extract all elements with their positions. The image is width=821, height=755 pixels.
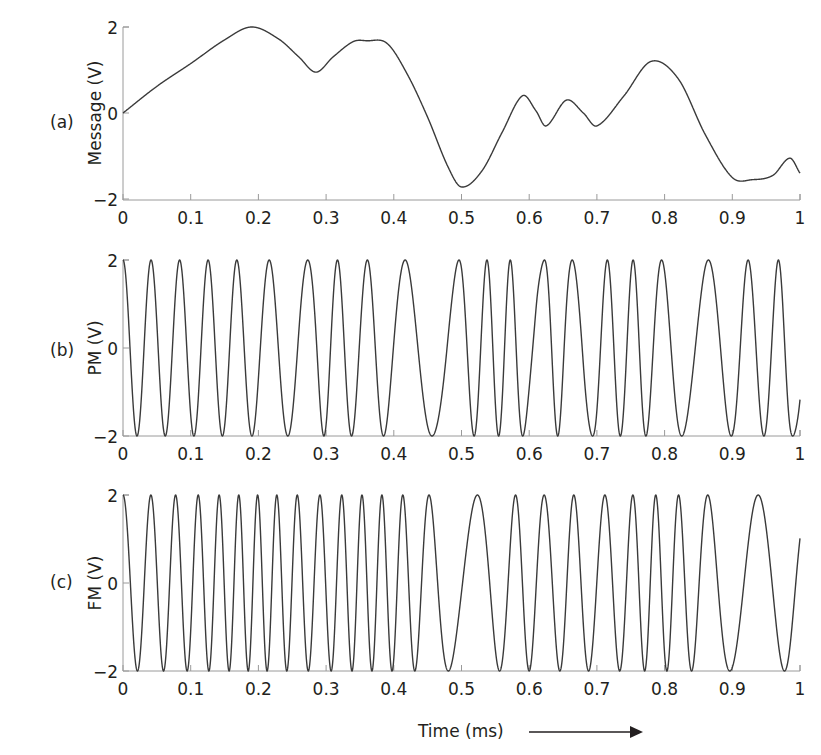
x-ticks-a: 00.10.20.30.40.50.60.70.80.91 <box>118 194 806 228</box>
x-tick-label: 0.4 <box>380 444 407 464</box>
y-tick-label: 2 <box>107 486 118 506</box>
x-tick-label: 0.4 <box>380 679 407 699</box>
axes-a <box>123 27 800 200</box>
y-tick-label: −2 <box>93 427 118 447</box>
pm-trace <box>123 260 800 436</box>
x-ticks-b: 00.10.20.30.40.50.60.70.80.91 <box>118 430 806 464</box>
x-tick-label: 0 <box>118 208 129 228</box>
x-tick-label: 1 <box>795 444 806 464</box>
x-tick-label: 0.8 <box>651 679 678 699</box>
x-tick-label: 1 <box>795 679 806 699</box>
x-tick-label: 0.1 <box>177 208 204 228</box>
y-tick-label: −2 <box>93 662 118 682</box>
x-tick-label: 0 <box>118 444 129 464</box>
x-tick-label: 0.3 <box>313 679 340 699</box>
panel-message: (a) Message (V) 20−2 00.10.20.30.40.50.6… <box>50 18 805 228</box>
x-tick-label: 0.6 <box>516 444 543 464</box>
y-axis-label-message: Message (V) <box>85 61 105 166</box>
y-tick-label: 2 <box>107 251 118 271</box>
panel-tag-b: (b) <box>50 340 74 360</box>
x-tick-label: 0.9 <box>719 444 746 464</box>
x-ticks-c: 00.10.20.30.40.50.60.70.80.91 <box>118 665 806 699</box>
y-axis-label-fm: FM (V) <box>85 556 105 611</box>
x-tick-label: 0.2 <box>245 208 272 228</box>
y-axis-label-pm: PM (V) <box>85 320 105 375</box>
fm-trace <box>123 495 800 671</box>
x-tick-label: 0.2 <box>245 679 272 699</box>
x-tick-label: 0.7 <box>583 444 610 464</box>
x-tick-label: 0.3 <box>313 444 340 464</box>
x-tick-label: 0.5 <box>448 208 475 228</box>
x-axis-label-time: Time (ms) <box>417 721 504 741</box>
x-tick-label: 0.2 <box>245 444 272 464</box>
panel-fm: (c) FM (V) 20−2 00.10.20.30.40.50.60.70.… <box>50 486 805 699</box>
x-tick-label: 0.6 <box>516 679 543 699</box>
x-tick-label: 0.5 <box>448 679 475 699</box>
x-tick-label: 0.7 <box>583 679 610 699</box>
x-tick-label: 0.8 <box>651 208 678 228</box>
x-tick-label: 0.8 <box>651 444 678 464</box>
y-tick-label: 0 <box>107 339 118 359</box>
x-tick-label: 0.1 <box>177 444 204 464</box>
y-tick-label: 2 <box>107 18 118 38</box>
x-tick-label: 0.6 <box>516 208 543 228</box>
x-tick-label: 0.4 <box>380 208 407 228</box>
x-tick-label: 0.9 <box>719 208 746 228</box>
y-tick-label: −2 <box>93 190 118 210</box>
panel-pm: (b) PM (V) 20−2 00.10.20.30.40.50.60.70.… <box>50 251 805 464</box>
panel-tag-a: (a) <box>50 112 74 132</box>
panel-tag-c: (c) <box>50 572 73 592</box>
x-tick-label: 1 <box>795 208 806 228</box>
x-tick-label: 0.1 <box>177 679 204 699</box>
y-tick-label: 0 <box>107 104 118 124</box>
axes-b <box>123 260 800 436</box>
x-tick-label: 0.9 <box>719 679 746 699</box>
x-tick-label: 0.5 <box>448 444 475 464</box>
x-tick-label: 0.3 <box>313 208 340 228</box>
right-arrow-icon <box>529 726 643 738</box>
x-tick-label: 0.7 <box>583 208 610 228</box>
y-tick-label: 0 <box>107 574 118 594</box>
x-tick-label: 0 <box>118 679 129 699</box>
modulation-figure: (a) Message (V) 20−2 00.10.20.30.40.50.6… <box>0 0 821 755</box>
message-trace <box>123 27 800 187</box>
